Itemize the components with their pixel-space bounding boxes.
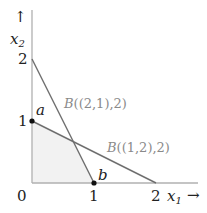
x-tick-0: 0: [17, 187, 27, 205]
x-axis-arrow-icon: →: [187, 186, 200, 204]
point-a: [29, 118, 34, 123]
y-axis-label: x2: [10, 30, 25, 49]
x-axis-label: x1: [167, 187, 182, 206]
line-label-b21: B((2,1),2): [63, 96, 127, 111]
point-a-label: a: [36, 101, 45, 119]
line-label-b12: B((1,2),2): [106, 140, 170, 155]
y-axis-arrow-icon: ↑: [14, 8, 27, 26]
feasible-region: [32, 121, 94, 183]
x-tick-1: 1: [89, 187, 99, 205]
y-tick-2: 2: [18, 50, 28, 68]
x-tick-2: 2: [151, 187, 161, 205]
point-b: [91, 180, 96, 185]
y-tick-1: 1: [18, 112, 28, 130]
point-b-label: b: [98, 166, 108, 184]
diagram: ↑ x2 2 1 0 1 2 x1 → a b B((2,1),2) B((1,…: [0, 0, 207, 213]
